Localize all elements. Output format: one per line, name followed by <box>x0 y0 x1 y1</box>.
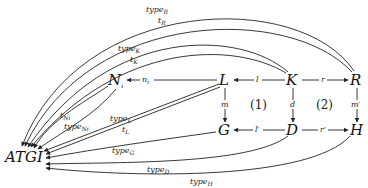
label-t-r: tR <box>158 16 166 26</box>
node-l: L <box>218 71 229 89</box>
region-2: (2) <box>316 98 333 112</box>
label-t-l: tL <box>122 125 129 135</box>
label-t-k: tK <box>130 55 138 65</box>
edge-type-h <box>46 136 350 174</box>
label-d: d <box>290 100 295 109</box>
commutative-diagram: ATGI Ni L K R G D H (1) (2) ni l r m d m… <box>0 0 368 188</box>
label-type-l: typeL <box>110 114 132 124</box>
label-type-d: typeD <box>147 165 170 175</box>
label-type-r: typeR <box>146 5 169 15</box>
label-type-ni: typeNi <box>64 122 89 132</box>
node-r: R <box>349 71 361 89</box>
label-l: l <box>256 75 259 84</box>
edge-t-k <box>31 55 286 147</box>
node-g: G <box>218 121 230 139</box>
label-type-h: typeH <box>190 177 214 187</box>
edge-type-k <box>28 45 288 147</box>
label-m: m <box>221 100 229 109</box>
node-k: K <box>285 71 298 89</box>
node-h: H <box>349 121 364 139</box>
label-type-g: typeG <box>112 146 135 156</box>
node-atgi: ATGI <box>3 148 44 166</box>
edge-t-ni <box>34 86 108 148</box>
region-1: (1) <box>250 98 267 112</box>
label-rprime: r′ <box>320 125 326 134</box>
label-lprime: l′ <box>255 125 260 134</box>
node-d: D <box>285 121 298 139</box>
label-mprime: m′ <box>351 100 361 109</box>
node-ni: Ni <box>107 71 123 89</box>
